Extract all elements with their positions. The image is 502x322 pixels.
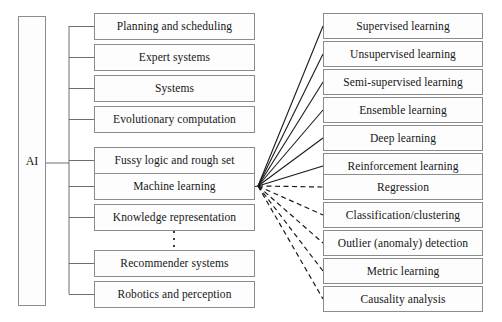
root-node-ai[interactable]: AI <box>18 16 46 306</box>
branch-node-2[interactable]: Expert systems <box>94 44 255 71</box>
branch-node-7[interactable]: Knowledge representation <box>94 204 255 231</box>
branch-node-6[interactable]: Machine learning <box>94 173 255 200</box>
ml-child-dashed-1[interactable]: Regression <box>323 174 483 200</box>
branch-node-label: Machine learning <box>133 180 215 193</box>
branch-node-label: Knowledge representation <box>113 211 236 224</box>
root-node-label: AI <box>26 154 39 169</box>
ml-child-solid-2[interactable]: Unsupervised learning <box>323 41 483 67</box>
branch-node-label: Systems <box>155 82 194 95</box>
ml-child-dashed-label: Causality analysis <box>360 293 445 306</box>
ml-child-dashed-2[interactable]: Classification/clustering <box>323 202 483 228</box>
edge-hub-to-solid-6 <box>258 166 323 186</box>
branch-node-label: Fussy logic and rough set <box>114 154 234 167</box>
edge-hub-to-solid-3 <box>258 82 323 186</box>
ml-child-dashed-5[interactable]: Causality analysis <box>323 286 483 312</box>
ml-child-dashed-label: Classification/clustering <box>346 209 460 222</box>
ml-child-solid-5[interactable]: Deep learning <box>323 125 483 151</box>
edge-hub-to-solid-4 <box>258 110 323 186</box>
branch-node-label: Robotics and perception <box>117 288 231 301</box>
ai-taxonomy-diagram: AI Planning and schedulingExpert systems… <box>0 0 502 322</box>
branch-node-label: Recommender systems <box>120 257 228 270</box>
edge-hub-to-solid-2 <box>258 54 323 186</box>
edge-ml-to-hub <box>255 186 258 187</box>
vertical-ellipsis-icon <box>173 231 175 247</box>
ml-child-solid-label: Ensemble learning <box>359 104 447 117</box>
edge-hub-to-dashed-1 <box>258 186 323 187</box>
edge-hub-to-solid-5 <box>258 138 323 186</box>
branch-node-1[interactable]: Planning and scheduling <box>94 13 255 40</box>
branch-node-9[interactable]: Robotics and perception <box>94 281 255 308</box>
edge-hub-to-dashed-3 <box>258 186 323 243</box>
branch-node-4[interactable]: Evolutionary computation <box>94 106 255 133</box>
ml-child-solid-4[interactable]: Ensemble learning <box>323 97 483 123</box>
edge-hub-to-dashed-4 <box>258 186 323 271</box>
edge-hub-to-solid-1 <box>258 26 323 186</box>
edge-hub-to-dashed-2 <box>258 186 323 215</box>
branch-node-label: Expert systems <box>139 51 210 64</box>
ml-child-solid-label: Reinforcement learning <box>347 160 458 173</box>
ml-child-dashed-label: Regression <box>377 181 429 194</box>
ml-child-dashed-4[interactable]: Metric learning <box>323 258 483 284</box>
ml-child-dashed-label: Outlier (anomaly) detection <box>338 237 468 250</box>
ml-child-solid-3[interactable]: Semi-supervised learning <box>323 69 483 95</box>
ml-child-dashed-label: Metric learning <box>367 265 440 278</box>
branch-node-5[interactable]: Fussy logic and rough set <box>94 147 255 174</box>
edge-hub-to-dashed-5 <box>258 186 323 299</box>
branch-node-label: Evolutionary computation <box>113 113 236 126</box>
ml-child-solid-label: Deep learning <box>370 132 436 145</box>
ml-child-solid-1[interactable]: Supervised learning <box>323 13 483 39</box>
ml-child-solid-label: Semi-supervised learning <box>343 76 463 89</box>
ml-child-dashed-3[interactable]: Outlier (anomaly) detection <box>323 230 483 256</box>
branch-node-8[interactable]: Recommender systems <box>94 250 255 277</box>
branch-node-3[interactable]: Systems <box>94 75 255 102</box>
ml-child-solid-label: Supervised learning <box>356 20 450 33</box>
branch-node-label: Planning and scheduling <box>117 20 232 33</box>
ml-child-solid-label: Unsupervised learning <box>350 48 456 61</box>
